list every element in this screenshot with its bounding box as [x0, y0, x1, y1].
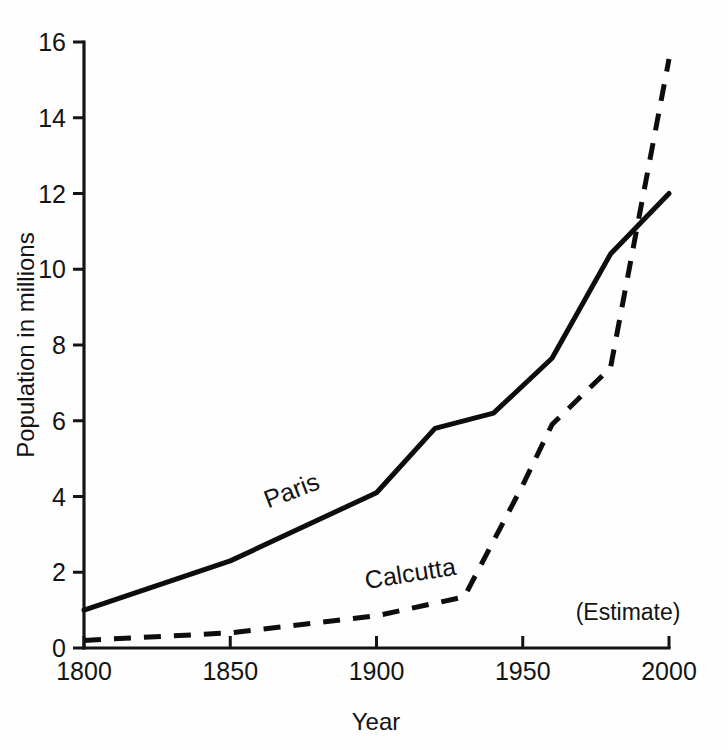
x-tick-label-1800: 1800 — [56, 657, 112, 685]
series-group — [84, 59, 669, 640]
y-axis: 0246810121416 — [38, 28, 84, 662]
y-tick-label-16: 16 — [38, 28, 66, 56]
y-tick-label-4: 4 — [52, 483, 66, 511]
series-line-paris — [84, 194, 669, 611]
chart-canvas: 0246810121416 18001850190019502000 Paris… — [0, 0, 728, 750]
series-label-calcutta: Calcutta — [363, 552, 458, 594]
y-tick-label-2: 2 — [52, 558, 66, 586]
x-tick-label-1950: 1950 — [495, 657, 551, 685]
annotation-group: (Estimate) — [576, 599, 681, 625]
x-axis: 18001850190019502000 — [56, 636, 697, 685]
x-axis-title: Year — [352, 708, 401, 735]
x-tick-group: 18001850190019502000 — [56, 636, 697, 685]
y-tick-label-10: 10 — [38, 255, 66, 283]
x-tick-label-1850: 1850 — [202, 657, 258, 685]
y-tick-label-8: 8 — [52, 331, 66, 359]
annotation-estimate: (Estimate) — [576, 599, 681, 625]
y-tick-label-14: 14 — [38, 104, 66, 132]
population-line-chart: 0246810121416 18001850190019502000 Paris… — [0, 0, 728, 750]
y-tick-group: 0246810121416 — [38, 28, 84, 662]
y-tick-label-12: 12 — [38, 180, 66, 208]
series-label-group: ParisCalcutta — [260, 467, 458, 594]
y-axis-title: Population in millions — [12, 232, 39, 457]
series-label-paris: Paris — [260, 467, 323, 514]
series-line-calcutta — [84, 59, 669, 640]
x-tick-label-1900: 1900 — [349, 657, 405, 685]
y-tick-label-6: 6 — [52, 407, 66, 435]
x-tick-label-2000: 2000 — [641, 657, 697, 685]
